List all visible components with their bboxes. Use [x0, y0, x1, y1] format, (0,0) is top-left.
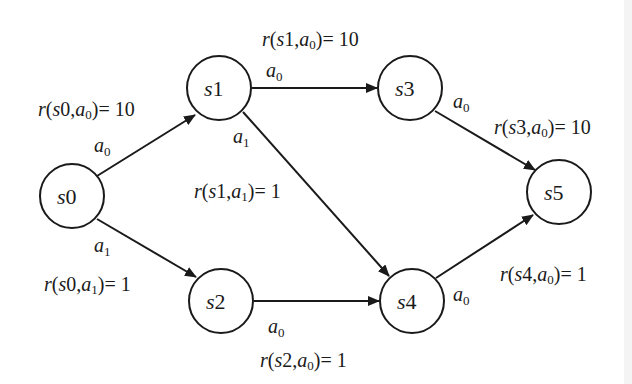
action-label-s1-a1: a1	[233, 125, 250, 150]
node-label-s5: s5	[544, 180, 564, 205]
node-label-s1: s1	[204, 76, 224, 101]
node-label-s2: s2	[206, 289, 226, 314]
action-label-s3-a0: a0	[453, 90, 470, 115]
edge-s0-s2	[97, 219, 196, 277]
reward-label-s2-a0: r(s2,a0)= 1	[260, 349, 347, 373]
reward-label-s1-a1: r(s1,a1)= 1	[194, 180, 281, 204]
node-label-s4: s4	[397, 289, 417, 314]
node-label-s0: s0	[57, 184, 77, 209]
action-label-s0-a0: a0	[94, 134, 111, 159]
reward-label-s4-a0: r(s4,a0)= 1	[500, 263, 587, 287]
reward-label-s0-a1: r(s0,a1)= 1	[44, 273, 131, 297]
edge-s0-s1	[97, 115, 195, 176]
reward-label-s3-a0: r(s3,a0)= 10	[494, 116, 591, 140]
action-label-s4-a0: a0	[453, 283, 470, 308]
action-label-s2-a0: a0	[268, 315, 285, 340]
action-label-s0-a1: a1	[94, 234, 111, 259]
diagram-svg: s0 s1 s2 s3 s4 s5 a0 a1 a0 a1 a0 a0 a0 r…	[0, 0, 632, 384]
action-label-s1-a0: a0	[266, 59, 283, 84]
reward-label-s1-a0: r(s1,a0)= 10	[262, 28, 359, 52]
page-edge-shadow	[624, 0, 632, 384]
reward-label-s0-a0: r(s0,a0)= 10	[38, 98, 135, 122]
mdp-diagram: s0 s1 s2 s3 s4 s5 a0 a1 a0 a1 a0 a0 a0 r…	[0, 0, 632, 384]
node-label-s3: s3	[395, 76, 415, 101]
